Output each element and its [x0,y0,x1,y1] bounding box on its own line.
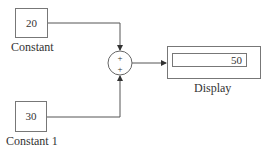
display-block[interactable]: 50 [167,46,261,79]
display-label: Display [194,81,231,96]
wire-constant1-to-sum [47,76,120,117]
wire-constant-to-sum [48,23,120,50]
constant1-label: Constant 1 [6,134,58,149]
constant1-block[interactable]: 30 [15,101,47,132]
display-field: 50 [172,53,247,67]
constant1-value: 30 [16,110,46,122]
sum-block[interactable] [108,51,132,75]
constant-block[interactable]: 20 [15,8,48,38]
display-value: 50 [231,54,242,67]
constant-label: Constant [11,40,54,55]
constant-value: 20 [16,17,47,29]
